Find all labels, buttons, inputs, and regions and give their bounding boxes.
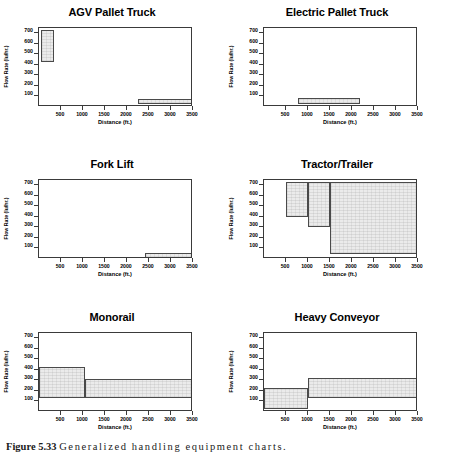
x-tick-label: 1500 — [318, 263, 340, 269]
y-tick-label: 300 — [24, 375, 33, 380]
chart-panel-3: Fork Lift100200300400500600700Flow Rate … — [0, 152, 224, 302]
data-region — [308, 182, 330, 228]
figure-caption: Figure 5.33 Generalized handling equipme… — [6, 441, 449, 452]
data-region — [298, 98, 360, 104]
x-tick-mark — [395, 258, 396, 262]
y-tick-label: 600 — [249, 39, 258, 44]
panel-title: Tractor/Trailer — [225, 158, 449, 170]
x-tick-mark — [417, 258, 418, 262]
x-axis-label: Distance (ft.) — [38, 271, 192, 277]
x-tick-mark — [329, 106, 330, 110]
x-tick-label: 3500 — [181, 263, 203, 269]
y-tick-label: 700 — [24, 28, 33, 33]
x-tick-label: 500 — [274, 416, 296, 422]
data-region — [39, 367, 85, 399]
x-tick-mark — [104, 106, 105, 110]
y-tick-label: 100 — [249, 91, 258, 96]
x-tick-mark — [192, 258, 193, 262]
chart-panel-4: Tractor/Trailer100200300400500600700Flow… — [225, 152, 449, 302]
y-tick-label: 400 — [249, 60, 258, 65]
y-tick-label: 500 — [249, 49, 258, 54]
x-tick-mark — [170, 411, 171, 415]
y-tick-label: 300 — [24, 70, 33, 75]
x-tick-label: 2000 — [340, 263, 362, 269]
x-tick-mark — [148, 411, 149, 415]
x-tick-label: 2000 — [115, 111, 137, 117]
x-tick-label: 500 — [49, 416, 71, 422]
x-tick-label: 2500 — [362, 416, 384, 422]
panel-title: Fork Lift — [0, 158, 224, 170]
x-tick-label: 3500 — [406, 416, 428, 422]
x-tick-mark — [351, 106, 352, 110]
data-region — [330, 182, 417, 254]
y-tick-label: 600 — [249, 344, 258, 349]
y-tick-label: 500 — [24, 354, 33, 359]
y-tick-label: 300 — [24, 222, 33, 227]
x-tick-label: 2000 — [115, 263, 137, 269]
x-tick-label: 2500 — [137, 263, 159, 269]
x-tick-mark — [307, 411, 308, 415]
y-tick-label: 700 — [249, 28, 258, 33]
x-tick-label: 2000 — [340, 111, 362, 117]
y-tick-label: 200 — [24, 386, 33, 391]
y-tick-label: 500 — [249, 354, 258, 359]
panel-title: Heavy Conveyor — [225, 311, 449, 323]
y-tick-label: 400 — [249, 212, 258, 217]
x-tick-mark — [170, 258, 171, 262]
chart-panel-1: AGV Pallet Truck100200300400500600700Flo… — [0, 0, 224, 150]
x-axis: 500100015002000250030003500 — [38, 258, 192, 272]
x-tick-mark — [170, 106, 171, 110]
x-tick-mark — [373, 106, 374, 110]
plot-area — [263, 332, 417, 411]
x-tick-label: 1500 — [318, 416, 340, 422]
x-tick-label: 1500 — [93, 416, 115, 422]
y-tick-label: 100 — [249, 396, 258, 401]
y-axis-label: Flow Rate (lu/hr.) — [1, 27, 11, 106]
data-region — [286, 182, 308, 217]
x-tick-label: 1000 — [296, 263, 318, 269]
x-axis-label: Distance (ft.) — [38, 119, 192, 125]
x-tick-mark — [82, 411, 83, 415]
y-tick-label: 400 — [24, 212, 33, 217]
y-tick-label: 200 — [24, 233, 33, 238]
y-tick-label: 200 — [249, 233, 258, 238]
x-tick-label: 1500 — [93, 111, 115, 117]
x-tick-label: 2000 — [340, 416, 362, 422]
y-tick-label: 200 — [249, 81, 258, 86]
x-tick-mark — [192, 106, 193, 110]
y-tick-label: 300 — [249, 375, 258, 380]
data-region — [308, 378, 417, 398]
y-tick-label: 200 — [24, 81, 33, 86]
y-tick-label: 400 — [24, 60, 33, 65]
chart-panel-5: Monorail100200300400500600700Flow Rate (… — [0, 305, 224, 455]
x-tick-label: 3500 — [181, 111, 203, 117]
y-tick-label: 300 — [249, 70, 258, 75]
x-tick-label: 3500 — [406, 263, 428, 269]
x-tick-mark — [82, 258, 83, 262]
x-tick-mark — [104, 411, 105, 415]
x-tick-mark — [285, 106, 286, 110]
x-tick-mark — [329, 411, 330, 415]
x-tick-label: 500 — [274, 111, 296, 117]
data-region — [138, 99, 192, 104]
panel-title: Electric Pallet Truck — [225, 6, 449, 18]
x-axis: 500100015002000250030003500 — [263, 106, 417, 120]
plot-area — [38, 179, 192, 258]
x-tick-label: 500 — [49, 111, 71, 117]
x-tick-mark — [329, 258, 330, 262]
x-tick-mark — [104, 258, 105, 262]
x-tick-mark — [148, 258, 149, 262]
x-tick-label: 3000 — [159, 263, 181, 269]
y-tick-label: 700 — [249, 333, 258, 338]
x-tick-label: 500 — [274, 263, 296, 269]
y-tick-label: 600 — [249, 191, 258, 196]
x-tick-mark — [373, 411, 374, 415]
x-tick-mark — [60, 258, 61, 262]
y-axis-label: Flow Rate (lu/hr.) — [1, 332, 11, 411]
y-tick-label: 100 — [24, 91, 33, 96]
y-tick-label: 700 — [249, 180, 258, 185]
y-tick-label: 200 — [249, 386, 258, 391]
x-tick-mark — [126, 258, 127, 262]
x-tick-mark — [285, 258, 286, 262]
y-axis-label: Flow Rate (lu/hr.) — [226, 332, 236, 411]
